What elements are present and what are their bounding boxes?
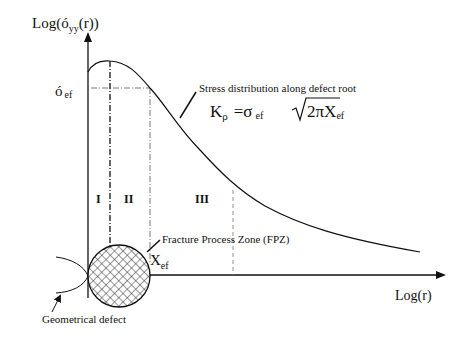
x-axis-label: Log(r) [395,288,432,304]
zone-label-ii: II [124,192,134,206]
fpz-pointer [147,240,160,252]
x-axis-arrow-icon [436,271,446,279]
svg-text:Kρ=σef: Kρ=σef [210,102,264,122]
zone-label-iii: III [195,192,209,206]
stress-diagram: Log(óyy(r)) óef Stress distribution alon… [0,0,465,338]
svg-text:2πXef: 2πXef [307,102,345,121]
y-axis-label: Log(óyy(r)) [32,15,99,34]
fracture-process-zone-circle [88,245,150,307]
curve-annotation-label: Stress distribution along defect root [199,82,356,94]
defect-pointer [52,296,60,312]
sigma-ef-label: óef [55,83,73,100]
stress-intensity-formula: Kρ=σef 2πXef [210,98,345,122]
zone-label-i: I [96,192,101,206]
fpz-label: Fracture Process Zone (FPZ) [162,233,290,246]
geometrical-defect-shape [56,257,88,293]
x-ef-label: Xef [150,252,169,271]
y-axis-arrow-icon [84,32,92,42]
curve-annotation-pointer [180,92,196,118]
defect-label: Geometrical defect [42,313,126,325]
